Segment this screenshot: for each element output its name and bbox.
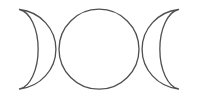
background-rect — [0, 0, 198, 100]
triple-moon-symbol: Triple Moon Symbol — [0, 0, 198, 100]
